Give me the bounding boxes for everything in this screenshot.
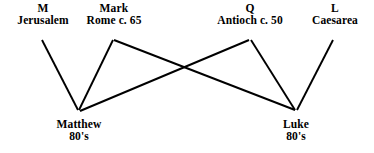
node-source-q-symbol: Q	[196, 2, 304, 14]
edge-q-to-luke	[251, 40, 295, 110]
node-source-q-place: Antioch c. 50	[196, 14, 304, 26]
node-source-l-symbol: L	[300, 2, 370, 14]
node-source-l: L Caesarea	[300, 2, 370, 27]
edge-m-to-matthew	[42, 40, 78, 110]
node-source-mark-place: Rome c. 65	[68, 14, 160, 26]
node-gospel-matthew-name: Matthew	[32, 118, 126, 130]
node-gospel-matthew: Matthew 80's	[32, 118, 126, 143]
edge-q-to-matthew	[80, 40, 249, 111]
node-source-l-place: Caesarea	[300, 14, 370, 26]
node-gospel-matthew-date: 80's	[32, 130, 126, 142]
node-gospel-luke: Luke 80's	[252, 118, 340, 143]
stemma-diagram: M Jerusalem Mark Rome c. 65 Q Antioch c.…	[0, 0, 374, 153]
edge-l-to-luke	[297, 40, 333, 110]
edge-mark-to-luke	[114, 40, 295, 110]
node-gospel-luke-name: Luke	[252, 118, 340, 130]
node-source-mark-symbol: Mark	[68, 2, 160, 14]
node-source-mark: Mark Rome c. 65	[68, 2, 160, 27]
node-gospel-luke-date: 80's	[252, 130, 340, 142]
node-source-q: Q Antioch c. 50	[196, 2, 304, 27]
